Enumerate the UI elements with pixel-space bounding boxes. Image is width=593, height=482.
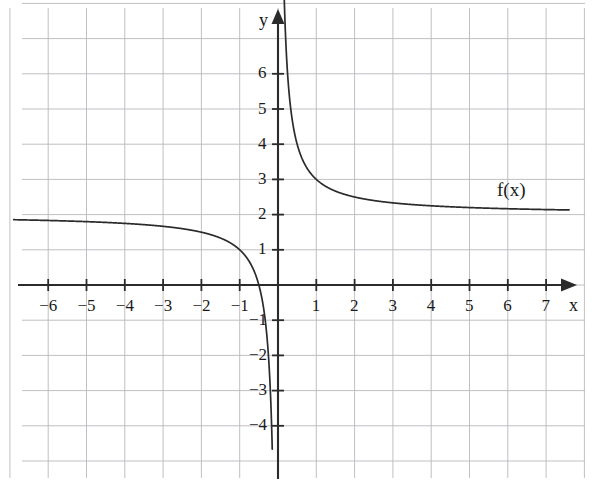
curve-right-branch <box>284 0 569 210</box>
vertical-gridlines <box>10 8 585 478</box>
y-tick-label: −1 <box>249 311 267 328</box>
x-tick-label: 3 <box>388 297 397 314</box>
horizontal-gridlines <box>22 3 585 461</box>
x-tick-label: 2 <box>350 297 359 314</box>
x-tick-label: 1 <box>312 297 321 314</box>
y-tick-label: 6 <box>258 64 267 81</box>
x-tick-label: 7 <box>542 297 551 314</box>
y-axis-label: y <box>259 11 268 29</box>
x-tick-label: −1 <box>231 297 249 314</box>
y-axis-arrowhead <box>272 9 285 24</box>
function-curve-label: f(x) <box>497 180 525 199</box>
x-axis-label: x <box>569 296 578 314</box>
x-tick-label: −3 <box>154 297 172 314</box>
axes <box>18 9 577 479</box>
curve-left-branch <box>14 220 273 450</box>
x-tick-label: −2 <box>192 297 210 314</box>
x-tick-label: 5 <box>465 297 474 314</box>
y-tick-label: −4 <box>249 416 267 433</box>
y-tick-label: 3 <box>258 170 267 187</box>
x-tick-label: −4 <box>116 297 134 314</box>
graph-figure: −6−5−4−3−2−11234567−4−3−2−1123456 y x f(… <box>0 0 593 482</box>
x-tick-label: 4 <box>427 297 436 314</box>
x-tick-label: −5 <box>78 297 96 314</box>
coordinate-plane <box>0 0 593 482</box>
y-tick-label: 2 <box>258 205 267 222</box>
y-tick-label: 5 <box>258 100 267 117</box>
y-tick-label: 1 <box>258 240 267 257</box>
y-tick-label: −3 <box>249 381 267 398</box>
y-tick-label: −2 <box>249 346 267 363</box>
x-tick-label: 6 <box>503 297 512 314</box>
function-curve <box>14 0 569 449</box>
x-axis-arrowhead <box>561 279 577 292</box>
y-tick-label: 4 <box>258 135 267 152</box>
x-tick-label: −6 <box>39 297 57 314</box>
